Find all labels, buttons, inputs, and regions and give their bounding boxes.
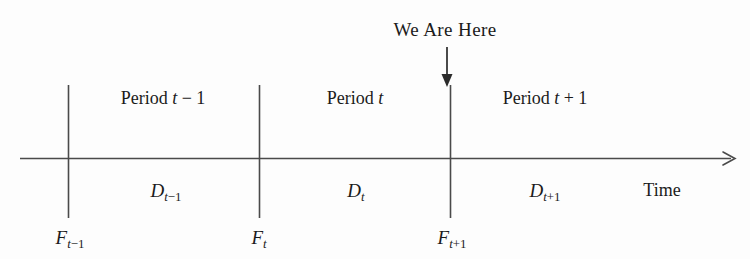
forecast-subscript-offset: 1 bbox=[78, 236, 84, 251]
forecast-symbol: F bbox=[56, 227, 68, 248]
period-label-text: Period bbox=[121, 88, 168, 108]
demand-subscript: t+1 bbox=[543, 189, 560, 204]
we-are-here-label: We Are Here bbox=[393, 20, 496, 39]
demand-subscript-variable: t bbox=[361, 189, 365, 204]
period-label-t: Period t bbox=[327, 89, 384, 107]
demand-symbol: D bbox=[347, 180, 361, 201]
demand-subscript-offset: 1 bbox=[175, 189, 181, 204]
forecast-subscript: t bbox=[263, 236, 267, 251]
timeline-diagram: We Are Here Period t − 1 Period t Period… bbox=[0, 0, 750, 259]
forecast-subscript-variable: t bbox=[263, 236, 267, 251]
period-offset: 1 bbox=[578, 88, 587, 108]
forecast-symbol: F bbox=[251, 227, 263, 248]
demand-subscript: t bbox=[361, 189, 365, 204]
period-operator: − bbox=[182, 88, 192, 108]
demand-label-t-minus-1: Dt−1 bbox=[150, 181, 181, 204]
period-label-t-plus-1: Period t + 1 bbox=[503, 89, 588, 107]
forecast-subscript-offset: 1 bbox=[460, 236, 466, 251]
demand-subscript: t−1 bbox=[164, 189, 181, 204]
diagram-lines-layer bbox=[0, 0, 750, 259]
period-label-text: Period bbox=[503, 88, 550, 108]
period-label-text: Period bbox=[327, 88, 374, 108]
forecast-label-t-minus-1: Ft−1 bbox=[56, 228, 85, 251]
demand-subscript-operator: + bbox=[547, 189, 554, 204]
period-label-t-minus-1: Period t − 1 bbox=[121, 89, 206, 107]
period-variable: t bbox=[378, 88, 383, 108]
forecast-symbol: F bbox=[438, 227, 450, 248]
demand-label-t-plus-1: Dt+1 bbox=[529, 181, 560, 204]
demand-label-t: Dt bbox=[347, 181, 364, 204]
forecast-label-t-plus-1: Ft+1 bbox=[438, 228, 467, 251]
period-operator: + bbox=[564, 88, 574, 108]
forecast-subscript: t−1 bbox=[67, 236, 84, 251]
demand-subscript-operator: − bbox=[168, 189, 175, 204]
forecast-subscript: t+1 bbox=[449, 236, 466, 251]
time-axis-label: Time bbox=[643, 181, 680, 199]
demand-subscript-offset: 1 bbox=[554, 189, 560, 204]
forecast-label-t: Ft bbox=[251, 228, 266, 251]
demand-symbol: D bbox=[529, 180, 543, 201]
period-offset: 1 bbox=[196, 88, 205, 108]
demand-symbol: D bbox=[150, 180, 164, 201]
